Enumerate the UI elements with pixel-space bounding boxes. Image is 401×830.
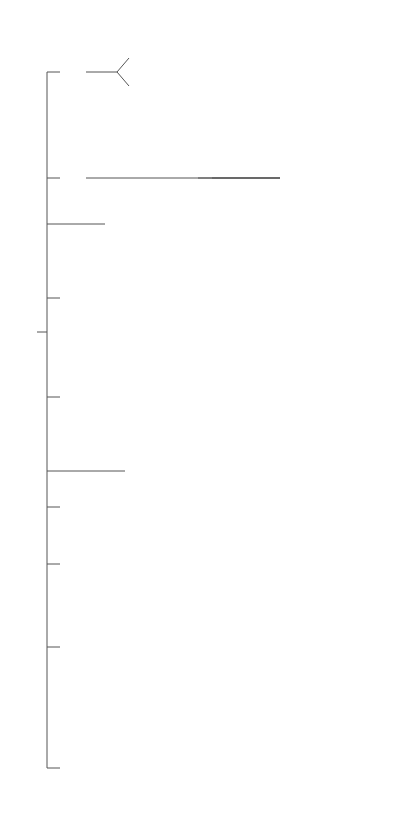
quantitative-methods-diagram bbox=[0, 0, 401, 830]
connector-lines bbox=[0, 0, 401, 830]
